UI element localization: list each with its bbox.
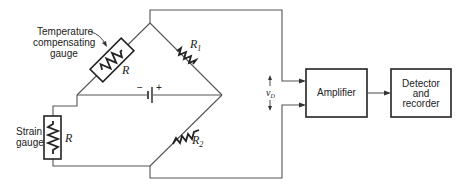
battery-plus-label: + <box>156 82 162 93</box>
temperature-gauge-R-label: R <box>121 63 130 77</box>
r2-label: R2 <box>191 133 203 149</box>
temperature-gauge-caption-2: compensating <box>33 37 95 48</box>
r1-label: R1 <box>189 37 201 53</box>
battery-minus-label: − <box>137 82 143 93</box>
strain-gauge <box>44 116 61 159</box>
detector-label-line3: recorder <box>402 98 440 109</box>
vd-label: vD <box>266 87 275 99</box>
bridge-arm-bottom-right <box>150 95 222 166</box>
strain-gauge-caption-2: gauge <box>16 137 44 148</box>
strain-gauge-wire-bottom <box>53 159 150 166</box>
arrow-into-detector <box>384 91 391 96</box>
strain-gauge-wire-top <box>53 95 77 116</box>
bridge-circuit-diagram: − + R Temperature compensating gauge R1 … <box>0 0 463 190</box>
amplifier-label: Amplifier <box>317 87 357 98</box>
temperature-gauge-caption-1: Temperature <box>37 26 94 37</box>
arrow-into-amplifier-bottom <box>299 103 306 108</box>
temperature-gauge-caption-3: gauge <box>50 48 78 59</box>
bottom-output-wire <box>150 105 304 178</box>
strain-gauge-R-label: R <box>64 131 73 145</box>
arrow-into-amplifier-top <box>299 79 306 84</box>
strain-gauge-caption-1: Strain <box>16 126 42 137</box>
